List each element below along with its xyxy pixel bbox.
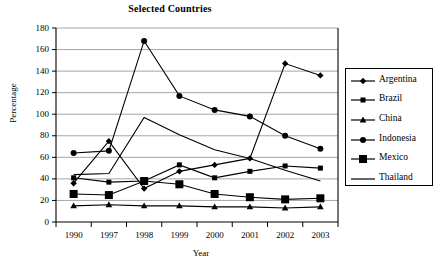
data-point-square-large — [246, 193, 254, 201]
data-point-circle — [71, 150, 77, 156]
data-point-square — [212, 175, 217, 180]
legend-item-china[interactable]: China — [346, 108, 432, 128]
legend-label: Mexico — [376, 152, 408, 162]
data-point-diamond — [176, 168, 182, 174]
legend-item-indonesia[interactable]: Indonesia — [346, 128, 432, 148]
data-point-square-large — [105, 191, 113, 199]
data-point-diamond — [211, 162, 217, 168]
data-point-circle — [317, 146, 323, 152]
legend-marker-icon — [350, 92, 376, 104]
data-point-circle — [247, 113, 253, 119]
data-point-triangle — [106, 201, 113, 207]
data-point-square-large — [211, 190, 219, 198]
data-point-square — [106, 180, 111, 185]
legend-item-mexico[interactable]: Mexico — [346, 147, 432, 167]
axes — [52, 28, 338, 227]
data-point-diamond — [360, 78, 366, 84]
data-point-triangle — [317, 204, 324, 210]
gridlines — [56, 28, 338, 200]
legend-marker-icon — [350, 112, 376, 124]
data-point-square-large — [140, 177, 148, 185]
data-point-diamond — [317, 72, 323, 78]
legend-label: Brazil — [376, 93, 402, 103]
legend-label: Argentina — [376, 74, 417, 84]
data-point-diamond — [282, 60, 288, 66]
data-point-circle — [212, 107, 218, 113]
data-point-square-large — [281, 195, 289, 203]
chart-container: Selected Countries Percentage Year 02040… — [0, 0, 436, 270]
data-point-circle — [282, 133, 288, 139]
data-point-square-large — [359, 155, 367, 163]
data-point-square — [318, 166, 323, 171]
legend-marker-icon — [350, 132, 376, 144]
series-argentina — [70, 60, 323, 191]
data-point-circle — [360, 137, 366, 143]
data-point-square-large — [70, 190, 78, 198]
legend-label: China — [376, 113, 402, 123]
data-point-square — [247, 169, 252, 174]
legend-item-thailand[interactable]: Thailand — [346, 167, 432, 187]
data-point-circle — [141, 38, 147, 44]
legend-item-argentina[interactable]: Argentina — [346, 69, 432, 89]
legend-marker-icon — [350, 151, 376, 163]
legend-label: Indonesia — [376, 133, 416, 143]
data-point-square-large — [175, 180, 183, 188]
chart-legend: ArgentinaBrazilChinaIndonesiaMexicoThail… — [345, 68, 433, 186]
data-point-square — [177, 162, 182, 167]
data-point-square — [71, 175, 76, 180]
legend-marker-icon — [350, 171, 376, 183]
data-point-circle — [176, 93, 182, 99]
legend-item-brazil[interactable]: Brazil — [346, 89, 432, 109]
data-point-square — [283, 163, 288, 168]
data-point-square-large — [316, 194, 324, 202]
legend-label: Thailand — [376, 172, 413, 182]
data-point-square — [361, 98, 366, 103]
legend-marker-icon — [350, 73, 376, 85]
data-point-circle — [106, 148, 112, 154]
